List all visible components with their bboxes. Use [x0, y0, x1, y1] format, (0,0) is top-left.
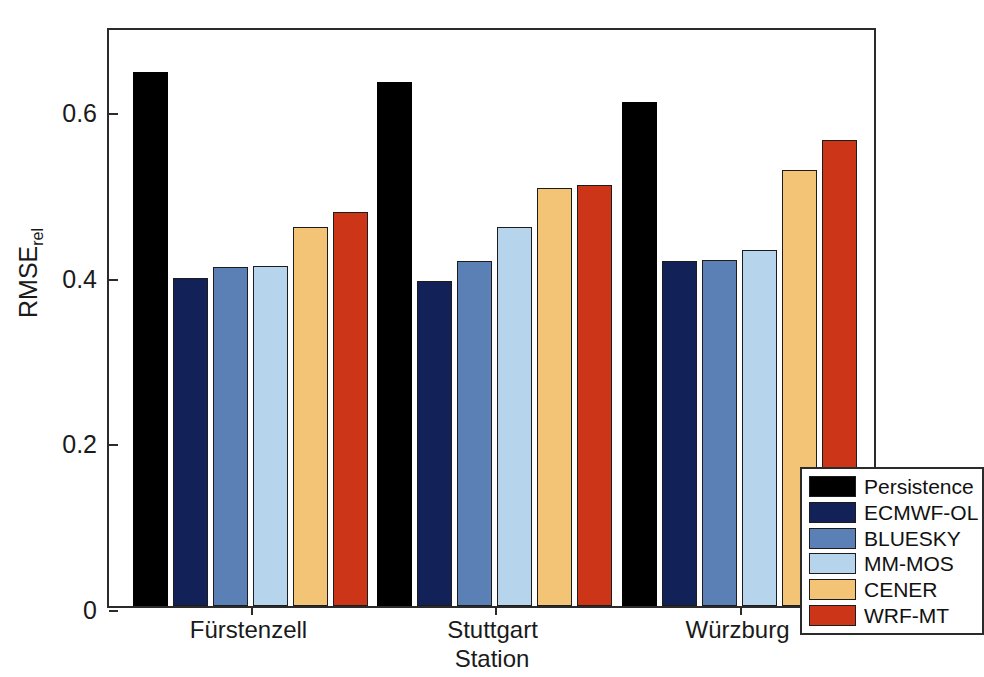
- legend-label: WRF-MT: [864, 605, 949, 626]
- y-tick-label: 0.2: [62, 430, 97, 459]
- bar: [537, 188, 572, 606]
- y-tick-mark: [109, 279, 118, 281]
- bar: [377, 82, 412, 606]
- legend-item: CENER: [809, 577, 976, 602]
- bar: [253, 266, 288, 606]
- legend-swatch: [809, 553, 856, 574]
- y-axis-title-subscript: rel: [29, 228, 46, 246]
- legend-label: MM-MOS: [864, 553, 954, 574]
- x-group-label: Fürstenzell: [190, 616, 307, 644]
- bar: [457, 261, 492, 606]
- legend-label: ECMWF-OL: [864, 502, 978, 523]
- y-tick-mark: [109, 113, 118, 115]
- y-tick-mark: [109, 610, 118, 612]
- bar: [702, 260, 737, 606]
- bar: [173, 278, 208, 606]
- plot-area: 00.20.40.6 PersistenceECMWF-OLBLUESKYMM-…: [107, 28, 876, 608]
- x-group-label: Würzburg: [685, 616, 789, 644]
- bar: [417, 281, 452, 606]
- legend-label: BLUESKY: [864, 528, 961, 549]
- y-tick-label: 0: [83, 596, 97, 625]
- legend-item: ECMWF-OL: [809, 500, 976, 525]
- legend-item: BLUESKY: [809, 526, 976, 551]
- x-tick-mark: [251, 606, 253, 615]
- bar: [622, 102, 657, 606]
- legend-item: Persistence: [809, 474, 976, 499]
- bar: [742, 250, 777, 606]
- legend-swatch: [809, 476, 856, 497]
- bar: [213, 267, 248, 606]
- legend-label: Persistence: [864, 476, 974, 497]
- y-tick-label: 0.6: [62, 98, 97, 127]
- bar: [333, 212, 368, 606]
- bar: [577, 185, 612, 606]
- y-tick-label: 0.4: [62, 264, 97, 293]
- x-tick-mark: [495, 606, 497, 615]
- legend-item: MM-MOS: [809, 551, 976, 576]
- legend: PersistenceECMWF-OLBLUESKYMM-MOSCENERWRF…: [800, 467, 984, 635]
- y-axis-title-base: RMSE: [14, 246, 42, 318]
- legend-swatch: [809, 528, 856, 549]
- bar: [497, 227, 532, 606]
- bar: [133, 72, 168, 606]
- bar: [293, 227, 328, 606]
- legend-swatch: [809, 579, 856, 600]
- x-axis-title: Station: [455, 645, 530, 673]
- y-tick-mark: [109, 444, 118, 446]
- legend-swatch: [809, 605, 856, 626]
- legend-label: CENER: [864, 579, 938, 600]
- legend-item: WRF-MT: [809, 603, 976, 628]
- bar: [662, 261, 697, 607]
- y-axis-title: RMSErel: [14, 228, 47, 318]
- x-tick-mark: [740, 606, 742, 615]
- x-group-label: Stuttgart: [447, 616, 538, 644]
- legend-swatch: [809, 502, 856, 523]
